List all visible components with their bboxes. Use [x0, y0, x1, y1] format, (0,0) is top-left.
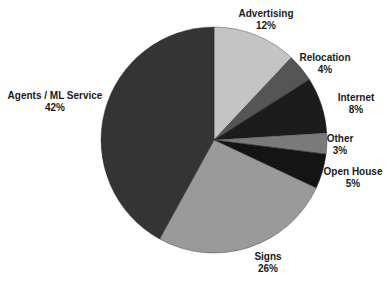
slice-label-name: Internet	[338, 92, 375, 104]
slice-label-percent: 26%	[254, 263, 281, 275]
slice-label-percent: 3%	[327, 145, 354, 157]
slice-label-name: Other	[327, 133, 354, 145]
slice-label-percent: 8%	[338, 104, 375, 116]
slice-label: Agents / ML Service42%	[8, 90, 103, 114]
slice-label-name: Signs	[254, 251, 281, 263]
slice-label-name: Advertising	[238, 8, 293, 20]
slice-label: Signs26%	[254, 251, 281, 275]
slice-label-name: Relocation	[299, 52, 350, 64]
slice-label-name: Open House	[324, 166, 383, 178]
slice-label: Other3%	[327, 133, 354, 157]
slice-label-percent: 4%	[299, 64, 350, 76]
slice-label-percent: 12%	[238, 20, 293, 32]
slice-label-percent: 5%	[324, 178, 383, 190]
slice-label: Relocation4%	[299, 52, 350, 76]
slice-label: Advertising12%	[238, 8, 293, 32]
slice-label-name: Agents / ML Service	[8, 90, 103, 102]
slice-label-percent: 42%	[8, 102, 103, 114]
slice-label: Internet8%	[338, 92, 375, 116]
slice-label: Open House5%	[324, 166, 383, 190]
